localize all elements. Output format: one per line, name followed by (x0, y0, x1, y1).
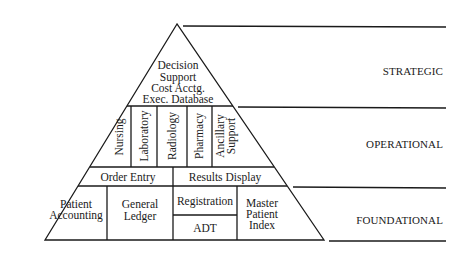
label-order-entry: Order Entry (100, 171, 155, 184)
level-line-strategic-operational (238, 107, 446, 108)
level-line-operational-foundational (293, 187, 446, 188)
label-results-display: Results Display (189, 171, 262, 184)
label-registration: Registration (177, 195, 233, 208)
pyramid-diagram: Decision Support Cost Acctg. Exec. Datab… (0, 0, 461, 254)
level-line-top (183, 26, 446, 27)
label-support: Support (225, 117, 238, 154)
operational-systems: Nursing Laboratory Radiology Pharmacy An… (113, 110, 238, 161)
level-label-strategic: STRATEGIC (383, 65, 443, 77)
label-nursing: Nursing (113, 118, 126, 155)
label-radiology: Radiology (166, 112, 179, 160)
strategic-box: Decision Support Cost Acctg. Exec. Datab… (143, 59, 214, 105)
level-label-operational: OPERATIONAL (366, 138, 443, 150)
label-index: Index (249, 219, 275, 231)
label-ledger: Ledger (124, 210, 157, 223)
strategic-line-4: Exec. Database (143, 93, 214, 105)
label-adt: ADT (193, 222, 217, 234)
level-label-foundational: FOUNDATIONAL (356, 214, 443, 226)
label-pharmacy: Pharmacy (193, 113, 206, 159)
label-accounting: Accounting (49, 209, 103, 222)
strategic-line-1: Decision (158, 59, 199, 71)
label-general: General (122, 198, 158, 210)
label-laboratory: Laboratory (138, 110, 151, 161)
